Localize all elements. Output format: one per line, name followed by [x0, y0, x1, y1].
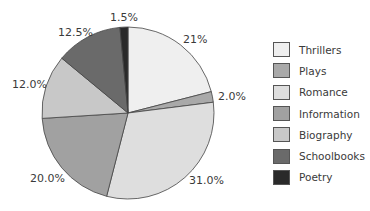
slice-label-plays: 2.0% — [218, 90, 246, 103]
legend-item-thrillers: Thrillers — [273, 39, 365, 60]
slice-label-schoolbooks: 12.5% — [58, 26, 93, 39]
legend-label: Thrillers — [299, 44, 341, 56]
legend-item-romance: Romance — [273, 82, 365, 103]
slice-label-poetry: 1.5% — [110, 11, 138, 24]
slice-label-romance: 31.0% — [189, 174, 224, 187]
legend-label: Plays — [299, 65, 326, 77]
legend-label: Biography — [299, 129, 353, 141]
legend-item-poetry: Poetry — [273, 167, 365, 188]
legend-label: Information — [299, 108, 360, 120]
legend-swatch-icon — [273, 106, 290, 121]
slice-label-thrillers: 21% — [183, 33, 207, 46]
legend-swatch-icon — [273, 85, 290, 100]
legend-swatch-icon — [273, 170, 290, 185]
legend-item-schoolbooks: Schoolbooks — [273, 145, 365, 166]
slice-label-biography: 12.0% — [12, 78, 47, 91]
legend-label: Poetry — [299, 171, 333, 183]
legend-swatch-icon — [273, 42, 290, 57]
legend-label: Schoolbooks — [299, 150, 365, 162]
legend-swatch-icon — [273, 149, 290, 164]
legend-item-biography: Biography — [273, 124, 365, 145]
legend-label: Romance — [299, 86, 348, 98]
slice-label-information: 20.0% — [30, 172, 65, 185]
legend-swatch-icon — [273, 63, 290, 78]
legend-item-information: Information — [273, 103, 365, 124]
legend-swatch-icon — [273, 127, 290, 142]
chart-legend: Thrillers Plays Romance Information Biog… — [273, 39, 365, 188]
legend-item-plays: Plays — [273, 60, 365, 81]
